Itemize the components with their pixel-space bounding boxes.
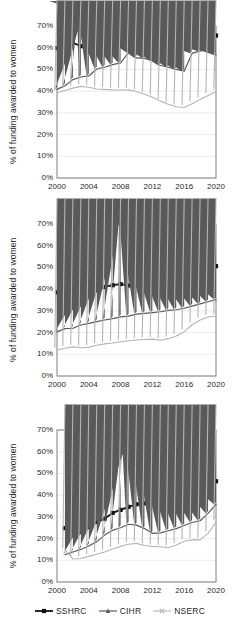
legend-label: NSERC: [174, 606, 205, 616]
legend-marker-icon: [153, 607, 171, 615]
chart-panel: Canada Research Chairs% of funding award…: [0, 404, 240, 600]
chart-panel: Grants% of funding awarded to women70%60…: [0, 198, 240, 404]
legend: SSHRCCIHRNSERC: [0, 606, 240, 616]
legend-label: SSHRC: [56, 606, 87, 616]
legend-item-cihr[interactable]: CIHR: [99, 606, 142, 616]
legend-marker-icon: [35, 607, 53, 615]
chart-panel: Scholarships% of funding awarded to wome…: [0, 0, 240, 198]
legend-item-nserc[interactable]: NSERC: [153, 606, 205, 616]
legend-label: CIHR: [120, 606, 142, 616]
legend-marker-icon: [99, 607, 117, 615]
legend-item-sshrc[interactable]: SSHRC: [35, 606, 87, 616]
